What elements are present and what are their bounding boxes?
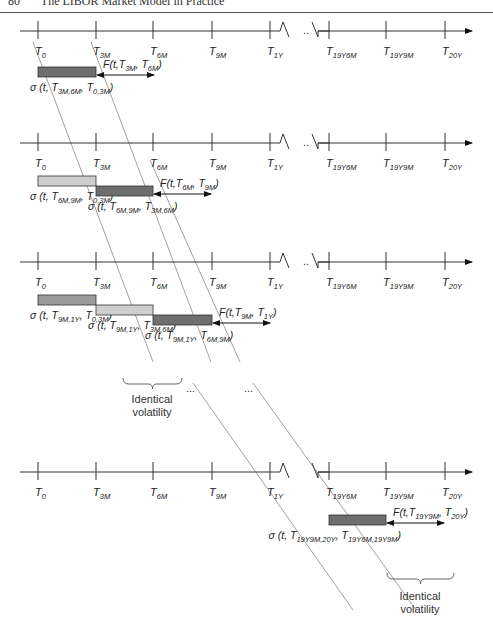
section-1: σ (t, T3M,6M, T0,3M)F(t,T3M, T6M) (30, 58, 162, 96)
tick-label-T3M: T3M (93, 157, 111, 172)
section-3: σ (t, T9M,1Y, T0,3M)σ (t, T9M,1Y, T3M,6M… (30, 295, 277, 344)
forward-rate-label: F(t,T3M, T6M) (103, 58, 162, 73)
volatility-label: σ (t, T3M,6M, T0,3M) (30, 81, 113, 96)
volatility-bar (96, 186, 153, 196)
tick-label-T19Y9M: T19Y9M (383, 276, 414, 291)
volatility-bar (96, 305, 153, 315)
tick-label-T19Y6M: T19Y6M (326, 276, 357, 291)
tick-label-T1Y: T1Y (267, 157, 284, 172)
tick-label-T0: T0 (35, 45, 47, 60)
axis-break-icon (280, 463, 289, 478)
ellipsis-1: ... (186, 382, 195, 394)
tick-label-T9M: T9M (209, 45, 227, 60)
section-4: σ (t, T19Y9M,20Y, T19Y6M,19Y9M)F(t,T19Y9… (269, 506, 469, 544)
axis-break-icon (280, 22, 289, 37)
axis-break-icon (312, 134, 330, 149)
tick-label-T19Y9M: T19Y9M (383, 157, 414, 172)
axis-break-icon (280, 134, 289, 149)
identical-volatility-label-2b: volatility (400, 603, 440, 615)
volatility-bar (38, 295, 96, 305)
timeline-2: ..T0T3MT6MT9MT1YT19Y6MT19Y9MT20Y (20, 133, 472, 172)
tick-label-T6M: T6M (150, 486, 168, 501)
axis-break-icon (312, 463, 330, 478)
tick-label-T19Y6M: T19Y6M (326, 486, 357, 501)
forward-rate-label: F(t,T9M, T1Y) (219, 306, 277, 321)
tick-label-T19Y6M: T19Y6M (326, 157, 357, 172)
identical-volatility-label-1: Identical (132, 393, 173, 405)
volatility-label: σ (t, T6M,9M, T3M,6M) (88, 200, 178, 215)
tick-label-T19Y9M: T19Y9M (383, 45, 414, 60)
timeline-1: ..T0T3MT6MT9MT1YT19Y6MT19Y9MT20Y (20, 21, 472, 60)
tick-label-T6M: T6M (150, 157, 168, 172)
tick-label-T19Y9M: T19Y9M (383, 486, 414, 501)
section-2: σ (t, T6M,9M, T0,3M)σ (t, T6M,9M, T3M,6M… (30, 176, 219, 215)
timeline-4: T0T3MT6MT9MT1YT19Y6MT19Y9MT20Y (20, 462, 472, 501)
forward-rate-label: F(t,T6M, T9M) (160, 177, 219, 192)
libor-volatility-diagram: ..T0T3MT6MT9MT1YT19Y6MT19Y9MT20Y..T0T3MT… (0, 0, 493, 631)
brace-icon (387, 573, 454, 584)
tick-label-T20Y: T20Y (442, 486, 463, 501)
forward-rate-label: F(t,T19Y9M, T20Y) (393, 506, 468, 521)
identical-volatility-label-2: Identical (400, 590, 441, 602)
break-ellipsis: .. (303, 24, 309, 36)
volatility-bar (38, 176, 96, 186)
tick-label-T1Y: T1Y (267, 45, 284, 60)
tick-label-T3M: T3M (93, 276, 111, 291)
axis-break-icon (280, 253, 289, 268)
tick-label-T20Y: T20Y (442, 157, 463, 172)
tick-label-T20Y: T20Y (442, 276, 463, 291)
timeline-3: ..T0T3MT6MT9MT1YT19Y6MT19Y9MT20Y (20, 252, 472, 291)
tick-label-T1Y: T1Y (267, 276, 284, 291)
tick-label-T0: T0 (35, 486, 47, 501)
volatility-bar (38, 67, 96, 77)
volatility-label: σ (t, T19Y9M,20Y, T19Y6M,19Y9M) (269, 529, 402, 544)
ellipsis-2: ... (244, 382, 253, 394)
tick-label-T9M: T9M (209, 276, 227, 291)
identical-volatility-label-1b: volatility (132, 406, 172, 418)
tick-label-T1Y: T1Y (267, 486, 284, 501)
tick-label-T3M: T3M (93, 486, 111, 501)
volatility-bar (153, 315, 212, 325)
brace-icon (123, 378, 182, 389)
volatility-bar (329, 515, 386, 525)
tick-label-T20Y: T20Y (442, 45, 463, 60)
axis-break-icon (312, 253, 330, 268)
tick-label-T0: T0 (35, 276, 47, 291)
break-ellipsis: .. (303, 255, 309, 267)
tick-label-T19Y6M: T19Y6M (326, 45, 357, 60)
axis-break-icon (312, 22, 330, 37)
tick-label-T9M: T9M (209, 157, 227, 172)
break-ellipsis: .. (303, 136, 309, 148)
volatility-label: σ (t, T9M,1Y, T6M,9M) (145, 329, 233, 344)
tick-label-T9M: T9M (209, 486, 227, 501)
tick-label-T0: T0 (35, 157, 47, 172)
tick-label-T6M: T6M (150, 276, 168, 291)
